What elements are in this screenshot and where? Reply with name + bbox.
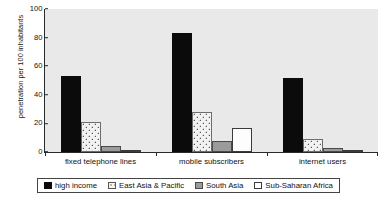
bar[interactable]: [323, 148, 343, 152]
y-tick-40: 40: [34, 91, 45, 99]
bar-group: internet users: [267, 9, 378, 152]
bar[interactable]: [283, 78, 303, 152]
bar[interactable]: [343, 150, 363, 152]
legend-item-label: South Asia: [206, 182, 243, 190]
y-tick-0: 0: [38, 148, 45, 156]
y-axis-title: penetration per 100 inhabitants: [16, 0, 25, 142]
legend-item-label: Sub-Saharan Africa: [265, 182, 333, 190]
x-axis-category-label: internet users: [267, 157, 378, 166]
bar-group-bars: [267, 9, 378, 152]
plot-area: 100 80 60 40 20 0 fixed telephone linesm…: [44, 9, 378, 153]
bar-chart-figure: penetration per 100 inhabitants 100 80 6…: [0, 0, 384, 200]
y-tick-label: 60: [34, 62, 45, 70]
bar[interactable]: [101, 146, 121, 152]
bar[interactable]: [121, 150, 141, 152]
y-tick-80: 80: [34, 34, 45, 42]
bar[interactable]: [303, 139, 323, 152]
chart-legend: high income East Asia & Pacific South As…: [37, 178, 340, 193]
y-tick-label: 80: [34, 34, 45, 42]
legend-item-sub-saharan-africa[interactable]: Sub-Saharan Africa: [254, 182, 333, 190]
bar-groups: fixed telephone linesmobile subscribersi…: [45, 9, 378, 152]
legend-item-east-asia-pacific[interactable]: East Asia & Pacific: [108, 182, 184, 190]
bar-group-bars: [45, 9, 156, 152]
bar[interactable]: [192, 112, 212, 152]
legend-item-high-income[interactable]: high income: [44, 182, 97, 190]
bar[interactable]: [172, 33, 192, 152]
bar[interactable]: [61, 76, 81, 152]
bar[interactable]: [232, 128, 252, 152]
y-tick-100: 100: [30, 5, 45, 13]
bar[interactable]: [212, 141, 232, 152]
x-tick-mark: [156, 152, 157, 156]
y-tick-20: 20: [34, 120, 45, 128]
x-axis-category-label: mobile subscribers: [156, 157, 267, 166]
y-tick-60: 60: [34, 62, 45, 70]
legend-swatch-icon: [254, 182, 262, 190]
legend-swatch-icon: [195, 182, 203, 190]
x-tick-mark: [45, 152, 46, 156]
legend-swatch-icon: [44, 182, 52, 190]
x-axis-category-label: fixed telephone lines: [45, 157, 156, 166]
bar-group: fixed telephone lines: [45, 9, 156, 152]
bar-group-bars: [156, 9, 267, 152]
x-tick-mark: [377, 152, 378, 156]
x-tick-mark: [267, 152, 268, 156]
y-tick-label: 40: [34, 91, 45, 99]
legend-swatch-icon: [108, 182, 116, 190]
bar-group: mobile subscribers: [156, 9, 267, 152]
y-tick-label: 0: [38, 148, 45, 156]
legend-item-label: high income: [55, 182, 97, 190]
y-tick-label: 100: [30, 5, 45, 13]
bar[interactable]: [81, 122, 101, 152]
legend-item-south-asia[interactable]: South Asia: [195, 182, 243, 190]
legend-item-label: East Asia & Pacific: [119, 182, 184, 190]
y-tick-label: 20: [34, 120, 45, 128]
